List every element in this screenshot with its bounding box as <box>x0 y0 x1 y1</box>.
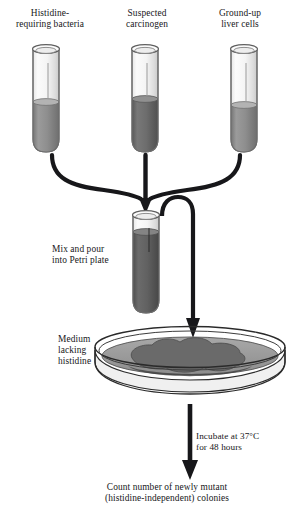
merge-arrows <box>52 155 240 214</box>
result-label: Count number of newly mutant (histidine-… <box>45 482 289 504</box>
test-tube-suspected-carcinogen <box>132 45 159 157</box>
test-tube-histidine-bacteria <box>33 45 60 157</box>
pour-arrow <box>162 197 200 338</box>
test-tube-liver-cells <box>231 45 258 157</box>
ames-test-diagram: Histidine- requiring bacteria Suspected … <box>0 0 293 514</box>
petri-plate-label: Medium lacking histidine <box>58 334 128 367</box>
tube-label-histidine-bacteria: Histidine- requiring bacteria <box>2 8 98 30</box>
tube-label-liver-cells: Ground-up liver cells <box>192 8 288 30</box>
incubation-label: Incubate at 37°C for 48 hours <box>196 431 292 453</box>
tube-label-suspected-carcinogen: Suspected carcinogen <box>99 8 195 30</box>
mix-tube-label: Mix and pour into Petri plate <box>52 244 148 266</box>
